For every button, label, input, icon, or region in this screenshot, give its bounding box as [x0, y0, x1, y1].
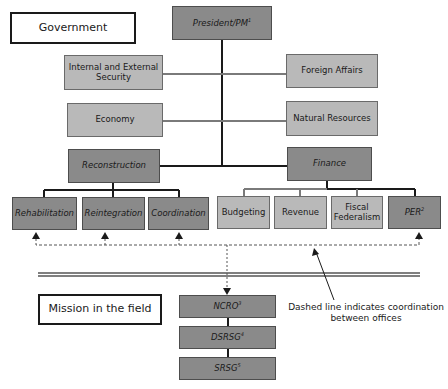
node-label: DSRSG: [211, 332, 241, 342]
node-label: Economy: [95, 115, 134, 125]
node-label: Revenue: [282, 208, 319, 218]
reintegration-node: Reintegration: [82, 197, 145, 230]
per-node: PER2: [388, 196, 441, 229]
node-label: PER: [405, 207, 421, 217]
rehabilitation-node: Rehabilitation: [12, 197, 77, 230]
footnote-marker: 3: [238, 300, 241, 306]
footnote-marker: 5: [238, 362, 241, 368]
foreign-affairs-node: Foreign Affairs: [286, 54, 378, 88]
node-label: Natural Resources: [293, 114, 370, 124]
node-label: Reintegration: [85, 209, 143, 219]
revenue-node: Revenue: [274, 196, 327, 229]
government-label-text: Government: [39, 22, 108, 35]
mission-label-text: Mission in the field: [48, 303, 151, 316]
node-label: Fiscal Federalism: [332, 203, 382, 223]
natural-resources-node: Natural Resources: [286, 101, 378, 136]
node-label: NCRO: [213, 301, 238, 311]
finance-node: Finance: [287, 147, 372, 181]
node-label: Reconstruction: [82, 161, 146, 171]
node-label: Coordination: [151, 209, 205, 219]
node-label: Rehabilitation: [15, 209, 74, 219]
mission-section-label: Mission in the field: [38, 294, 162, 325]
footnote-marker: 2: [421, 206, 424, 212]
node-label: Finance: [313, 159, 346, 169]
dashed-line-annotation: Dashed line indicates coordination betwe…: [284, 302, 448, 324]
srsg-node: SRSG5: [179, 357, 276, 380]
node-label: Budgeting: [222, 208, 266, 218]
reconstruction-node: Reconstruction: [68, 149, 160, 183]
president-label: President/PM: [193, 18, 248, 28]
footnote-marker: 1: [248, 17, 251, 23]
internal-external-security-node: Internal and External Security: [64, 55, 163, 90]
fiscal-federalism-node: Fiscal Federalism: [331, 196, 383, 229]
node-label: Internal and External Security: [65, 63, 162, 83]
economy-node: Economy: [67, 103, 163, 137]
node-label: Foreign Affairs: [301, 66, 362, 76]
government-section-label: Government: [10, 12, 136, 44]
annotation-line-2: between offices: [284, 313, 448, 324]
annotation-line-1: Dashed line indicates coordination: [284, 302, 448, 313]
dsrsg-node: DSRSG4: [179, 326, 276, 349]
node-label: SRSG: [214, 363, 237, 373]
coordination-node: Coordination: [148, 197, 209, 230]
budgeting-node: Budgeting: [217, 196, 270, 229]
president-pm-node: President/PM1: [172, 6, 272, 40]
footnote-marker: 4: [241, 331, 244, 337]
ncro-node: NCRO3: [179, 295, 276, 318]
